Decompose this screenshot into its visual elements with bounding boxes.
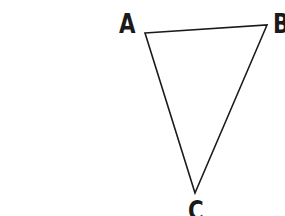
vertex-label-a: A [119,11,136,37]
triangle-diagram: A B C [0,0,285,216]
triangle-shape [0,0,285,216]
vertex-label-b: B [273,11,285,37]
triangle-abc [145,25,267,193]
vertex-label-c: C [188,198,204,216]
